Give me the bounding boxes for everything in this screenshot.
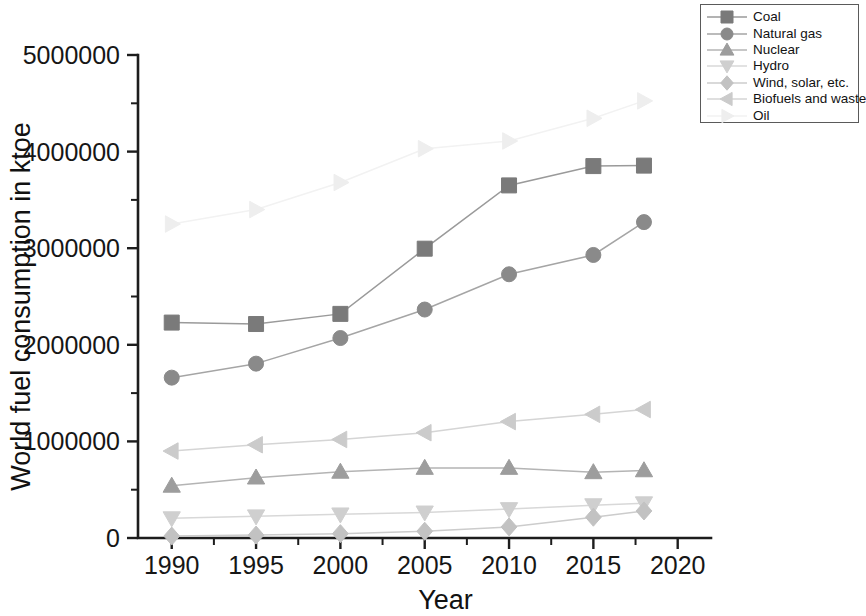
x-tick-label: 1990 (144, 551, 200, 579)
series-line (172, 511, 644, 536)
data-point (333, 331, 348, 346)
data-point (585, 464, 602, 479)
legend-item: Coal (706, 9, 851, 25)
y-tick-label: 1000000 (23, 427, 120, 455)
y-tick-label: 3000000 (23, 234, 120, 262)
data-point (332, 463, 349, 478)
legend-marker-triangle-down-icon (706, 58, 748, 74)
data-point (502, 178, 517, 193)
data-point (249, 317, 264, 332)
legend-marker-square-icon (706, 9, 748, 25)
data-point (165, 216, 180, 233)
data-point (416, 424, 431, 441)
x-axis-title: Year (418, 585, 473, 615)
data-point (586, 159, 601, 174)
legend-marker-triangle-right-icon (706, 108, 748, 124)
series-biofuels-and-waste (163, 401, 650, 459)
data-point (636, 158, 651, 173)
data-point (635, 401, 650, 418)
legend-item: Wind, solar, etc. (706, 75, 851, 91)
data-point (164, 370, 179, 385)
legend-item: Biofuels and waste (706, 91, 851, 107)
legend-item-label: Oil (748, 108, 770, 124)
data-point (247, 510, 264, 525)
data-point (587, 110, 602, 127)
legend-item: Natural gas (706, 25, 851, 41)
x-tick-label: 1995 (228, 551, 284, 579)
data-point (249, 356, 264, 371)
data-point (163, 512, 180, 527)
data-point (417, 241, 432, 256)
data-point (164, 315, 179, 330)
series-line (172, 503, 644, 518)
series-nuclear (163, 459, 652, 492)
data-point (164, 527, 180, 545)
data-point (502, 267, 517, 282)
legend-item-label: Hydro (748, 58, 789, 74)
x-tick-label: 2015 (566, 551, 622, 579)
data-point (247, 437, 262, 454)
legend-marker (721, 28, 733, 40)
y-tick-label: 0 (106, 524, 120, 552)
data-point (416, 459, 433, 474)
series-hydro (163, 497, 652, 527)
data-point (636, 215, 651, 230)
series-coal (164, 158, 651, 331)
x-tick-label: 2010 (481, 551, 537, 579)
data-point (503, 133, 518, 150)
data-point (417, 302, 432, 317)
chart-legend: CoalNatural gasNuclearHydroWind, solar, … (700, 4, 859, 123)
legend-item-label: Nuclear (748, 42, 800, 58)
data-point (333, 525, 349, 543)
legend-item-label: Wind, solar, etc. (748, 75, 849, 91)
x-tick-label: 2000 (313, 551, 369, 579)
legend-marker-triangle-left-icon (706, 91, 748, 107)
data-point (500, 413, 515, 430)
data-point (418, 140, 433, 157)
y-tick-label: 5000000 (23, 41, 120, 69)
data-point (334, 174, 349, 191)
series-natural-gas (164, 215, 651, 386)
data-point (586, 247, 601, 262)
data-point (332, 508, 349, 523)
legend-marker (721, 76, 734, 90)
series-line (172, 166, 644, 324)
data-point (585, 406, 600, 423)
data-point (248, 526, 264, 544)
legend-marker (720, 93, 732, 106)
legend-item-label: Natural gas (748, 26, 822, 42)
data-point (500, 503, 517, 518)
legend-marker (722, 109, 734, 122)
y-tick-label: 4000000 (23, 138, 120, 166)
data-point (585, 508, 601, 526)
series-line (172, 101, 644, 224)
series-line (172, 410, 644, 452)
series-oil (165, 93, 652, 233)
data-point (501, 518, 517, 536)
legend-marker-diamond-icon (706, 75, 748, 91)
data-point (500, 459, 517, 474)
legend-item: Nuclear (706, 42, 851, 58)
data-point (332, 431, 347, 448)
legend-marker-triangle-up-icon (706, 42, 748, 58)
data-point (250, 201, 265, 218)
data-point (163, 443, 178, 460)
x-tick-label: 2005 (397, 551, 453, 579)
legend-item: Hydro (706, 58, 851, 74)
data-point (636, 502, 652, 520)
data-point (635, 462, 652, 477)
data-point (333, 306, 348, 321)
y-tick-label: 2000000 (23, 331, 120, 359)
data-point (416, 506, 433, 521)
legend-item-label: Coal (748, 9, 781, 25)
legend-marker (721, 11, 733, 23)
legend-marker-circle-icon (706, 26, 748, 42)
legend-item-label: Biofuels and waste (748, 91, 866, 107)
series-line (172, 222, 644, 378)
legend-marker (720, 43, 734, 55)
legend-marker (720, 61, 734, 73)
y-axis-title: World fuel consumption in ktoe (6, 122, 36, 491)
data-point (638, 93, 653, 110)
x-tick-label: 2020 (650, 551, 706, 579)
